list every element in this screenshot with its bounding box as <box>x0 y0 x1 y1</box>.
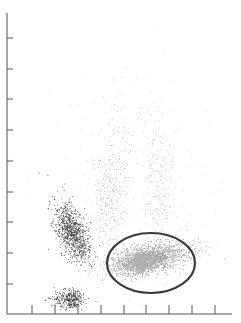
data-points <box>13 29 225 311</box>
dense-dark-cluster <box>39 173 103 281</box>
scatter-chart <box>0 0 241 323</box>
bottom-dark-cluster <box>45 287 96 310</box>
background-scatter <box>13 29 223 311</box>
